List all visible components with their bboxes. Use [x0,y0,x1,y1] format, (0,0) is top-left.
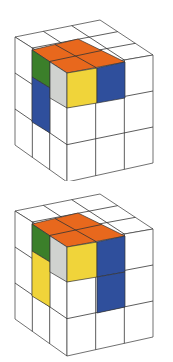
yellow-piece [67,68,97,108]
blue-lower-piece [97,272,125,313]
yellow-piece [67,242,97,282]
cube-figure-2 [0,174,173,355]
cube-1-drawing [0,0,173,181]
blue-upper-piece [97,236,125,277]
cube-2-drawing [0,174,173,362]
blue-upper-piece [97,62,125,103]
cube-figure-1 [0,0,173,181]
